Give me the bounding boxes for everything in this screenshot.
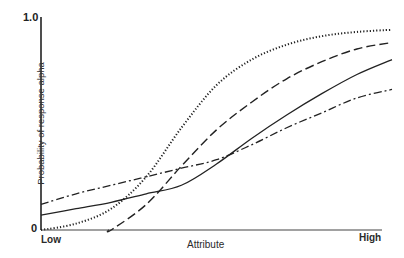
- line-chart: [0, 0, 404, 258]
- y-tick-max: 1.0: [23, 11, 38, 23]
- x-tick-low: Low: [41, 234, 61, 245]
- y-axis-title: Probability of response alpha: [35, 44, 46, 204]
- y-tick-min: 0: [31, 222, 37, 234]
- x-axis-title: Attribute: [187, 239, 224, 250]
- x-tick-high: High: [359, 232, 381, 243]
- curve-dashed: [107, 43, 392, 232]
- curve-dash-dot: [41, 89, 392, 204]
- curve-solid: [41, 60, 392, 215]
- curves: [41, 30, 392, 232]
